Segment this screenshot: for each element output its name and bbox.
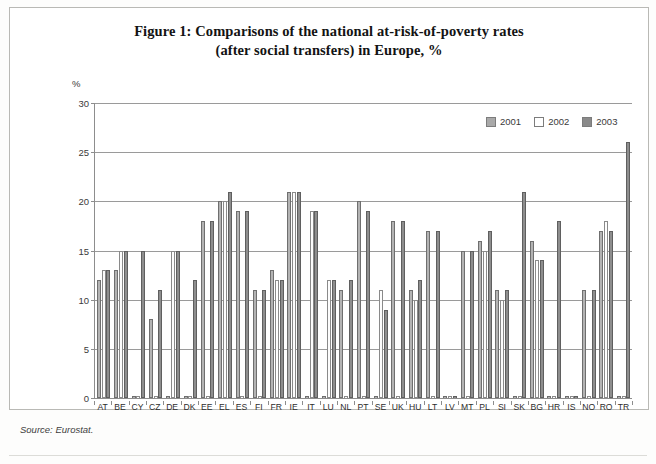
bar-group-HU [407,103,424,398]
bar-FR-2001 [270,270,274,398]
x-axis-labels: ATBECYCZDEDKEEELESFIFRIEITLUNLPTSEUKHULT… [94,401,632,415]
x-axis-tickmark-30 [615,401,616,405]
bar-DK-2002 [188,396,192,398]
x-axis-label-NO: NO [580,401,597,415]
bar-group-HR [546,103,563,398]
bar-HU-2002 [414,300,418,398]
bar-series-container [95,103,632,398]
bar-SE-2001 [374,396,378,398]
bar-group-BE [112,103,129,398]
x-axis-tickmark-16 [372,401,373,405]
x-axis-label-LU: LU [320,401,337,415]
x-axis-label-SK: SK [511,401,528,415]
x-axis-label-AT: AT [94,401,111,415]
bar-CZ-2001 [149,319,153,398]
bar-group-TR [615,103,632,398]
x-axis-tickmark-8 [233,401,234,405]
bar-NL-2001 [339,290,343,398]
bar-HR-2001 [547,396,551,398]
bar-HU-2001 [409,290,413,398]
x-axis-tickmark-15 [354,401,355,405]
bar-IS-2001 [565,396,569,398]
x-axis-tickmark-0 [94,401,95,405]
bar-LU-2001 [322,396,326,398]
x-axis-tickmark-17 [389,401,390,405]
bar-SI-2002 [500,300,504,398]
bar-LV-2002 [448,396,452,398]
bar-UK-2003 [401,221,405,398]
bar-IE-2001 [287,192,291,399]
bar-PT-2001 [357,201,361,398]
bar-IE-2003 [297,192,301,399]
bar-group-IT [303,103,320,398]
x-axis-tickmark-27 [563,401,564,405]
bar-group-SI [494,103,511,398]
bar-CY-2003 [141,251,145,399]
x-axis-tickmark-14 [337,401,338,405]
bar-group-PT [355,103,372,398]
bar-IT-2002 [310,211,314,398]
x-axis-label-LT: LT [424,401,441,415]
figure-page: Figure 1: Comparisons of the national at… [0,0,656,464]
x-axis-tickmark-4 [163,401,164,405]
page-divider [9,455,647,456]
bar-MT-2003 [470,251,474,399]
bar-NO-2003 [592,290,596,398]
x-axis-label-HU: HU [406,401,423,415]
bar-BE-2003 [124,251,128,399]
bar-ES-2002 [240,396,244,398]
x-axis-label-IT: IT [302,401,319,415]
x-axis-tickmark-13 [320,401,321,405]
bar-DE-2002 [171,251,175,399]
bar-PT-2003 [366,211,370,398]
bar-DK-2001 [184,396,188,398]
x-axis-tickmark-5 [181,401,182,405]
bar-group-SK [511,103,528,398]
bar-AT-2001 [97,280,101,398]
bar-RO-2003 [609,231,613,398]
x-axis-label-SE: SE [372,401,389,415]
x-axis-tickmark-22 [476,401,477,405]
bar-CZ-2003 [158,290,162,398]
x-axis-tickmark-19 [424,401,425,405]
x-axis-tickmark-6 [198,401,199,405]
x-axis-tickmark-20 [441,401,442,405]
x-axis-label-MT: MT [459,401,476,415]
figure-title: Figure 1: Comparisons of the national at… [10,22,648,60]
y-axis-tick-20: 20 [78,196,89,207]
bar-EL-2003 [228,192,232,399]
x-axis-label-IE: IE [285,401,302,415]
bar-CY-2001 [132,396,136,398]
x-axis-label-ES: ES [233,401,250,415]
bar-SE-2003 [384,310,388,399]
figure-title-line-1: Figure 1: Comparisons of the national at… [134,23,524,39]
bar-DE-2001 [166,396,170,398]
y-axis-tick-30: 30 [78,98,89,109]
bar-BE-2001 [114,270,118,398]
bar-group-SE [372,103,389,398]
bar-EE-2001 [201,221,205,398]
bar-group-LV [442,103,459,398]
bar-group-MT [459,103,476,398]
x-axis-label-BE: BE [111,401,128,415]
bar-EL-2001 [218,201,222,398]
bar-BG-2002 [535,260,539,398]
x-axis-label-CY: CY [129,401,146,415]
figure-frame: Figure 1: Comparisons of the national at… [9,7,649,410]
x-axis-label-PL: PL [476,401,493,415]
bar-IT-2001 [305,396,309,398]
x-axis-label-RO: RO [597,401,614,415]
bar-group-IS [563,103,580,398]
bar-group-CZ [147,103,164,398]
bar-ES-2003 [245,211,249,398]
bar-SI-2001 [495,290,499,398]
bar-MT-2001 [461,251,465,399]
bar-BE-2002 [119,251,123,399]
x-axis-label-FR: FR [268,401,285,415]
bar-LV-2003 [453,396,457,398]
x-axis-label-SI: SI [493,401,510,415]
bar-HR-2003 [557,221,561,398]
bar-group-AT [95,103,112,398]
bar-SE-2002 [379,290,383,398]
x-axis-tickmark-29 [597,401,598,405]
